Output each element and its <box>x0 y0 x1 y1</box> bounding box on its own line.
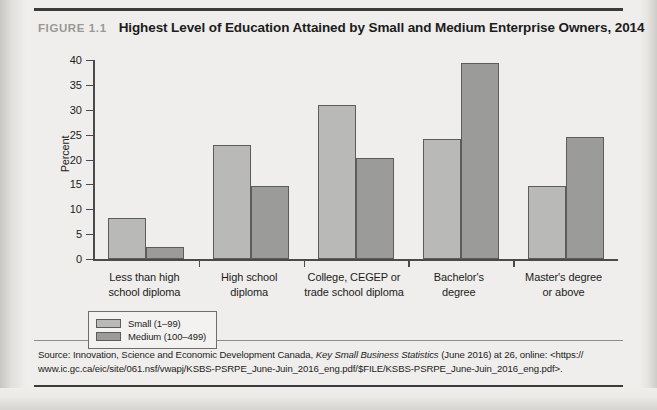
figure-page: FIGURE 1.1 Highest Level of Education At… <box>0 0 657 410</box>
x-axis-category-label: Bachelor'sdegree <box>406 270 511 299</box>
x-axis-category-label-line: High school <box>197 270 302 285</box>
bar-small <box>318 105 356 259</box>
figure-top-rule <box>34 8 623 11</box>
legend-color-swatch <box>96 332 121 341</box>
y-axis-tick-label: 35 <box>70 79 82 91</box>
figure-header: FIGURE 1.1 Highest Level of Education At… <box>38 20 628 35</box>
x-axis-category-label-line: diploma <box>197 285 302 300</box>
y-axis-tick-label: 20 <box>70 154 82 166</box>
y-axis-tick-label: 0 <box>76 253 82 265</box>
y-axis-tick-label: 30 <box>70 104 82 116</box>
y-axis-tick-mark <box>86 184 93 185</box>
y-axis-tick-mark <box>86 160 93 161</box>
y-axis-tick-mark <box>86 135 93 136</box>
source-publication-title: Key Small Business Statistics <box>316 349 439 360</box>
x-axis-tick-mark <box>408 260 410 267</box>
x-axis-category-label-line: College, CEGEP or <box>302 270 407 285</box>
bar-medium <box>566 137 604 259</box>
bar-small <box>213 145 251 259</box>
x-axis-category-label: High schooldiploma <box>197 270 302 299</box>
figure-title: Highest Level of Education Attained by S… <box>119 20 645 35</box>
x-axis-category-label-line: Master's degree <box>511 270 616 285</box>
x-axis-category-label-line: degree <box>406 285 511 300</box>
x-axis-category-label-line: or above <box>511 285 616 300</box>
figure-number-label: FIGURE 1.1 <box>38 22 107 34</box>
bar-medium <box>356 158 394 259</box>
y-axis-tick-label: 25 <box>70 129 82 141</box>
figure-bottom-rule <box>34 385 623 387</box>
page-edge-shadow-left <box>0 0 26 410</box>
source-url: www.ic.gc.ca/eic/site/061.nsf/vwapj/KSBS… <box>38 363 563 374</box>
x-axis-category-label: Master's degreeor above <box>511 270 616 299</box>
legend-color-swatch <box>96 319 121 328</box>
y-axis-tick-mark <box>86 110 93 111</box>
x-axis-category-label-line: trade school diploma <box>302 285 407 300</box>
y-axis-tick-mark <box>86 234 93 235</box>
x-axis-tick-mark <box>304 260 306 267</box>
x-axis-tick-mark <box>513 260 515 267</box>
y-axis-tick-mark <box>86 85 93 86</box>
y-axis-tick-mark <box>86 60 93 61</box>
bar-medium <box>251 186 289 259</box>
bars-layer <box>94 60 618 259</box>
x-axis-category-label: Less than highschool diploma <box>92 270 197 299</box>
source-note: Source: Innovation, Science and Economic… <box>38 348 626 375</box>
x-axis-category-labels: Less than highschool diplomaHigh schoold… <box>94 270 624 304</box>
y-axis-tick-label: 5 <box>76 228 82 240</box>
x-axis-category-label-line: Less than high <box>92 270 197 285</box>
legend-label: Small (1–99) <box>128 318 181 329</box>
legend-item: Small (1–99) <box>96 317 206 330</box>
source-middle: (June 2016) at 26, online: <https:// <box>439 349 584 360</box>
x-axis-category-label: College, CEGEP ortrade school diploma <box>302 270 407 299</box>
page-edge-shadow-bottom <box>0 388 657 410</box>
x-axis-tick-mark <box>199 260 201 267</box>
y-axis-tick-label: 10 <box>70 203 82 215</box>
legend-label: Medium (100–499) <box>128 331 206 342</box>
x-axis-category-label-line: Bachelor's <box>406 270 511 285</box>
bar-medium <box>146 247 184 259</box>
bar-small <box>423 139 461 259</box>
y-axis-tick-label: 40 <box>70 54 82 66</box>
chart-legend: Small (1–99)Medium (100–499) <box>88 311 217 349</box>
chart-plot-area: Percent 0510152025303540 <box>38 52 624 277</box>
legend-item: Medium (100–499) <box>96 330 206 343</box>
page-edge-shadow-right <box>639 0 657 410</box>
y-axis-tick-mark <box>86 259 93 260</box>
x-axis-line <box>93 259 618 261</box>
x-axis-category-label-line: school diploma <box>92 285 197 300</box>
bar-medium <box>461 63 499 260</box>
bar-small <box>108 218 146 259</box>
y-axis-tick-label: 15 <box>70 178 82 190</box>
y-axis-tick-mark <box>86 209 93 210</box>
y-axis-tick-labels: 0510152025303540 <box>56 52 82 259</box>
bar-small <box>528 186 566 259</box>
source-prefix: Source: Innovation, Science and Economic… <box>38 349 316 360</box>
